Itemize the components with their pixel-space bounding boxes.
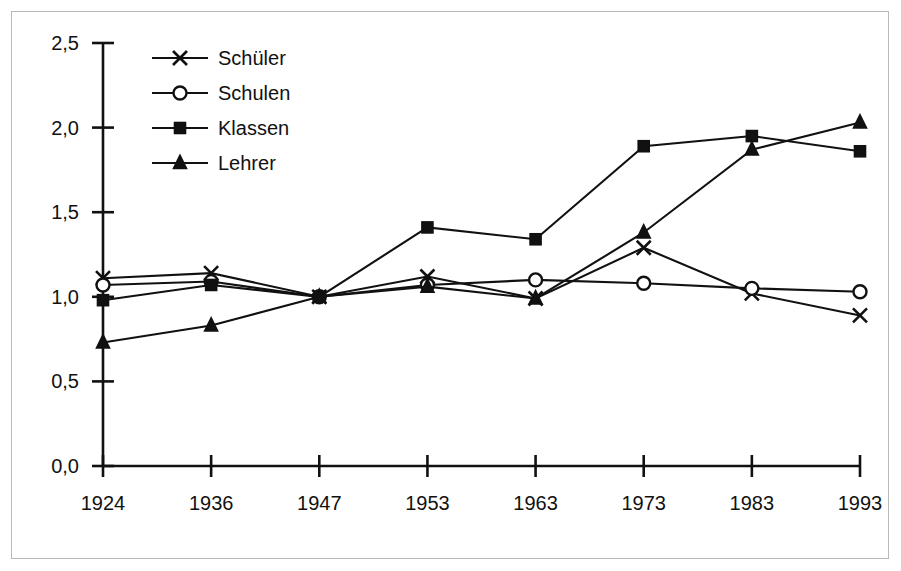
chart-figure: 0,00,51,01,52,02,5 192419361947195319631…: [0, 0, 901, 571]
legend-label: Lehrer: [218, 152, 276, 174]
y-tick-label: 2,0: [51, 117, 79, 139]
marker-circle: [637, 277, 650, 290]
x-tick-label: 1963: [513, 492, 558, 514]
legend-item[interactable]: Schüler: [152, 47, 286, 69]
data-series: [98, 131, 866, 306]
x-tick-label: 1953: [405, 492, 450, 514]
series-polyline: [103, 136, 860, 300]
legend-item[interactable]: Lehrer: [152, 152, 276, 174]
x-tick-label: 1924: [81, 492, 126, 514]
marker-triangle: [637, 225, 650, 238]
legend-item[interactable]: Klassen: [152, 117, 289, 139]
marker-circle: [529, 273, 542, 286]
legend-label: Klassen: [218, 117, 289, 139]
marker-square: [98, 295, 109, 306]
marker-square: [422, 222, 433, 233]
marker-circle: [745, 282, 758, 295]
marker-square: [175, 123, 186, 134]
data-series: [97, 115, 867, 348]
marker-square: [746, 131, 757, 142]
marker-circle: [854, 285, 867, 298]
marker-circle: [97, 278, 110, 291]
y-tick-label: 0,5: [51, 370, 79, 392]
line-chart-plot: 0,00,51,01,52,02,5 192419361947195319631…: [0, 0, 901, 571]
marker-square: [206, 279, 217, 290]
x-tick-label: 1983: [730, 492, 775, 514]
marker-triangle: [174, 155, 187, 168]
legend-item[interactable]: Schulen: [152, 82, 290, 104]
marker-x-cross: [637, 241, 651, 255]
marker-triangle: [854, 115, 867, 128]
y-tick-label: 0,0: [51, 455, 79, 477]
marker-square: [530, 234, 541, 245]
x-axis: 19241936194719531963197319831993: [81, 455, 883, 514]
x-tick-label: 1947: [297, 492, 342, 514]
marker-square: [855, 146, 866, 157]
series-layer: [96, 115, 867, 348]
marker-square: [638, 141, 649, 152]
marker-circle: [174, 87, 187, 100]
x-tick-label: 1973: [621, 492, 666, 514]
x-tick-label: 1993: [838, 492, 883, 514]
y-axis: 0,00,51,01,52,02,5: [51, 32, 114, 477]
x-tick-label: 1936: [189, 492, 234, 514]
y-tick-label: 2,5: [51, 32, 79, 54]
y-tick-label: 1,5: [51, 201, 79, 223]
chart-legend: SchülerSchulenKlassenLehrer: [152, 47, 290, 174]
legend-label: Schulen: [218, 82, 290, 104]
legend-label: Schüler: [218, 47, 286, 69]
y-tick-label: 1,0: [51, 286, 79, 308]
